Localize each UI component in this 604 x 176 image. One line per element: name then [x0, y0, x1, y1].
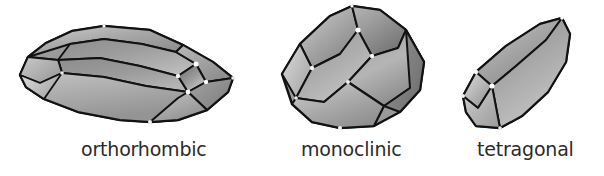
orthorhombic-vertex-highlight — [231, 76, 235, 80]
orthorhombic-vertex-highlight — [148, 120, 152, 124]
monoclinic-vertex-highlight — [346, 80, 350, 84]
orthorhombic-vertex-highlight — [176, 74, 180, 78]
orthorhombic-vertex-highlight — [186, 90, 191, 95]
tetragonal-vertex-highlight — [474, 70, 478, 74]
orthorhombic-vertex-highlight — [193, 61, 198, 66]
monoclinic-vertex-highlight — [338, 126, 342, 130]
crystal-tetragonal — [461, 16, 570, 130]
monoclinic-vertex-highlight — [355, 27, 360, 32]
crystal-label-orthorhombic: orthorhombic — [81, 140, 207, 159]
crystal-monoclinic — [282, 4, 424, 130]
crystal-label-monoclinic: monoclinic — [301, 140, 402, 159]
crystal-orthorhombic — [20, 24, 235, 124]
tetragonal-vertex-highlight — [489, 83, 494, 88]
tetragonal-vertex-highlight — [498, 126, 502, 130]
crystal-label-tetragonal: tetragonal — [477, 140, 574, 159]
orthorhombic-vertex-highlight — [102, 24, 105, 27]
monoclinic-vertex-highlight — [370, 54, 374, 58]
orthorhombic-vertex-highlight — [60, 71, 64, 75]
tetragonal-vertex-highlight — [560, 16, 564, 20]
monoclinic-vertex-highlight — [294, 96, 298, 100]
monoclinic-vertex-highlight — [310, 66, 314, 70]
crystal-systems-figure: orthorhombic monoclinic tetragonal — [0, 0, 604, 176]
tetragonal-vertex-highlight — [461, 94, 465, 98]
orthorhombic-vertex-highlight — [204, 80, 208, 84]
monoclinic-vertex-highlight — [350, 4, 353, 7]
